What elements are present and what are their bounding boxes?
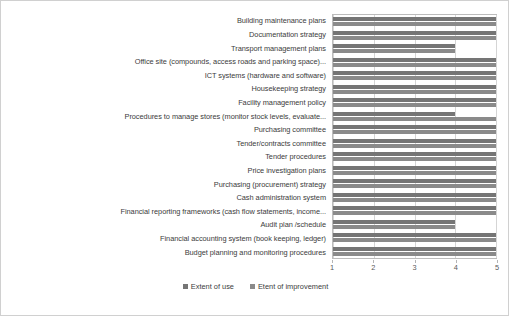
category-label: Housekeeping strategy — [7, 82, 330, 96]
bar-extent-of-use — [333, 206, 496, 210]
bar-row — [333, 150, 496, 164]
bar-extent-of-use — [333, 220, 455, 224]
bar-extent-of-use — [333, 98, 496, 102]
bar-extent-of-use — [333, 139, 496, 143]
legend-swatch-icon — [183, 284, 188, 289]
bar-extent-of-improvement — [333, 63, 496, 67]
axis-tick-label: 4 — [454, 263, 458, 272]
legend-item[interactable]: Extent of use — [183, 282, 234, 291]
bar-extent-of-improvement — [333, 76, 496, 80]
bar-row — [333, 218, 496, 232]
category-label: Audit plan /schedule — [7, 218, 330, 232]
bar-row — [333, 29, 496, 43]
bar-extent-of-use — [333, 247, 496, 251]
bar-row — [333, 123, 496, 137]
bar-row — [333, 96, 496, 110]
bar-extent-of-improvement — [333, 144, 496, 148]
bar-rows — [333, 15, 496, 258]
axis-tick-label: 3 — [412, 263, 416, 272]
category-label: Purchasing committee — [7, 123, 330, 137]
bar-extent-of-improvement — [333, 252, 496, 256]
bar-extent-of-improvement — [333, 49, 455, 53]
value-axis: 12345 — [332, 260, 497, 274]
bar-extent-of-improvement — [333, 157, 496, 161]
category-label: Tender/contracts committee — [7, 136, 330, 150]
bar-extent-of-improvement — [333, 90, 496, 94]
bar-extent-of-use — [333, 58, 496, 62]
bar-row — [333, 204, 496, 218]
plot-area — [332, 14, 497, 259]
bar-extent-of-improvement — [333, 211, 496, 215]
bar-row — [333, 164, 496, 178]
bar-extent-of-use — [333, 112, 455, 116]
bar-extent-of-improvement — [333, 36, 496, 40]
bar-extent-of-use — [333, 85, 496, 89]
bar-row — [333, 69, 496, 83]
category-axis-labels: Building maintenance plansDocumentation … — [7, 14, 330, 259]
axis-tick-label: 1 — [330, 263, 334, 272]
gridline — [496, 15, 497, 258]
bar-row — [333, 231, 496, 245]
legend-item[interactable]: Etent of improvement — [250, 282, 328, 291]
category-label: ICT systems (hardware and software) — [7, 68, 330, 82]
category-label: Cash administration system — [7, 191, 330, 205]
bar-extent-of-use — [333, 179, 496, 183]
bar-extent-of-improvement — [333, 22, 496, 26]
bar-row — [333, 191, 496, 205]
category-label: Building maintenance plans — [7, 14, 330, 28]
bar-row — [333, 177, 496, 191]
bar-row — [333, 137, 496, 151]
legend-swatch-icon — [250, 284, 255, 289]
bar-extent-of-improvement — [333, 225, 455, 229]
category-label: Budget planning and monitoring procedure… — [7, 245, 330, 259]
category-label: Financial accounting system (book keepin… — [7, 232, 330, 246]
bar-extent-of-use — [333, 152, 496, 156]
bar-extent-of-improvement — [333, 130, 496, 134]
bar-row — [333, 56, 496, 70]
bar-row — [333, 83, 496, 97]
category-label: Office site (compounds, access roads and… — [7, 55, 330, 69]
bar-row — [333, 245, 496, 259]
category-label: Tender procedures — [7, 150, 330, 164]
bar-extent-of-use — [333, 31, 496, 35]
chart-legend: Extent of useEtent of improvement — [1, 282, 509, 291]
bar-row — [333, 15, 496, 29]
bar-extent-of-use — [333, 44, 455, 48]
bar-extent-of-improvement — [333, 184, 496, 188]
bar-extent-of-improvement — [333, 238, 496, 242]
bar-row — [333, 110, 496, 124]
category-label: Price investigation plans — [7, 164, 330, 178]
category-label: Facility management policy — [7, 96, 330, 110]
category-label: Purchasing (procurement) strategy — [7, 177, 330, 191]
category-label: Documentation strategy — [7, 28, 330, 42]
bar-extent-of-use — [333, 233, 496, 237]
legend-label: Etent of improvement — [258, 282, 328, 291]
bar-extent-of-use — [333, 71, 496, 75]
bar-extent-of-use — [333, 17, 496, 21]
chart-container: Building maintenance plansDocumentation … — [0, 0, 509, 316]
bar-extent-of-improvement — [333, 103, 496, 107]
axis-tick-label: 2 — [371, 263, 375, 272]
bar-row — [333, 42, 496, 56]
axis-tick-label: 5 — [495, 263, 499, 272]
bar-extent-of-improvement — [333, 117, 496, 121]
bar-extent-of-use — [333, 125, 496, 129]
legend-label: Extent of use — [191, 282, 234, 291]
bar-extent-of-use — [333, 193, 496, 197]
bar-extent-of-improvement — [333, 171, 496, 175]
chart-plot-wrapper: Building maintenance plansDocumentation … — [1, 1, 509, 316]
bar-extent-of-use — [333, 166, 496, 170]
category-label: Procedures to manage stores (monitor sto… — [7, 109, 330, 123]
bar-extent-of-improvement — [333, 198, 496, 202]
category-label: Financial reporting frameworks (cash flo… — [7, 205, 330, 219]
category-label: Transport management plans — [7, 41, 330, 55]
